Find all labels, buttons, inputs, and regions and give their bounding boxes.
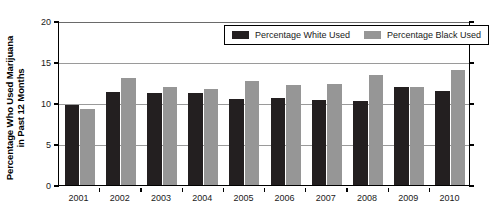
bar bbox=[327, 84, 342, 185]
y-axis-tick-label: 5 bbox=[46, 140, 51, 150]
bar bbox=[65, 105, 80, 185]
bar bbox=[394, 87, 409, 185]
x-axis-tick-label: 2005 bbox=[233, 193, 253, 203]
bar bbox=[80, 109, 95, 185]
bar bbox=[271, 98, 286, 185]
bar bbox=[163, 87, 178, 185]
bar bbox=[188, 93, 203, 185]
x-axis-tick bbox=[388, 188, 389, 192]
bar bbox=[435, 91, 450, 185]
y-axis-tick-right bbox=[469, 185, 474, 186]
bar bbox=[410, 87, 425, 185]
bar bbox=[229, 99, 244, 185]
bar bbox=[369, 75, 384, 185]
x-axis-tick-label: 2001 bbox=[69, 193, 89, 203]
x-axis-tick bbox=[305, 188, 306, 192]
legend-swatch-white-used bbox=[232, 31, 249, 39]
bar bbox=[147, 93, 162, 185]
bar-group bbox=[353, 22, 383, 185]
bar-group bbox=[106, 22, 136, 185]
x-axis-tick-label: 2002 bbox=[110, 193, 130, 203]
chart-legend: Percentage White Used Percentage Black U… bbox=[224, 25, 489, 45]
plot-area: 05101520 bbox=[58, 22, 470, 186]
x-axis-tick-label: 2004 bbox=[192, 193, 212, 203]
legend-swatch-black-used bbox=[364, 31, 381, 39]
x-axis-tick-label: 2010 bbox=[439, 193, 459, 203]
y-axis-title-line-2: in Past 12 Months bbox=[15, 36, 27, 180]
y-axis-tick bbox=[54, 185, 59, 186]
bar bbox=[106, 92, 121, 185]
x-axis-tick bbox=[182, 188, 183, 192]
bar-group bbox=[147, 22, 177, 185]
legend-item-white-used: Percentage White Used bbox=[232, 30, 350, 40]
bar-group bbox=[229, 22, 259, 185]
y-axis-title: Percentage Who Used Marijuana in Past 12… bbox=[0, 0, 30, 216]
bar bbox=[204, 89, 219, 185]
bars-layer bbox=[59, 22, 469, 185]
y-axis-tick-label: 10 bbox=[41, 99, 51, 109]
bar bbox=[286, 85, 301, 185]
y-axis-tick-right bbox=[469, 62, 474, 63]
x-axis-tick bbox=[346, 188, 347, 192]
bar-group bbox=[312, 22, 342, 185]
bar-group bbox=[435, 22, 465, 185]
x-axis-tick bbox=[264, 188, 265, 192]
bar bbox=[451, 70, 466, 185]
legend-label-white-used: Percentage White Used bbox=[255, 30, 350, 40]
x-axis-tick-label: 2006 bbox=[275, 193, 295, 203]
bar-group bbox=[394, 22, 424, 185]
y-axis-title-line-1: Percentage Who Used Marijuana bbox=[4, 36, 16, 180]
y-axis-tick-label: 0 bbox=[46, 181, 51, 191]
bar-group bbox=[271, 22, 301, 185]
bar-group bbox=[65, 22, 95, 185]
x-axis-tick-label: 2007 bbox=[316, 193, 336, 203]
y-axis-tick-label: 15 bbox=[41, 58, 51, 68]
bar bbox=[312, 100, 327, 185]
y-axis-tick-right bbox=[469, 144, 474, 145]
y-axis-tick-label: 20 bbox=[41, 17, 51, 27]
x-axis-tick-label: 2003 bbox=[151, 193, 171, 203]
bar bbox=[245, 81, 260, 185]
y-axis-tick-right bbox=[469, 103, 474, 104]
x-axis-tick bbox=[140, 188, 141, 192]
x-axis: 2001200220032004200520062007200820092010 bbox=[58, 188, 470, 206]
x-axis-tick bbox=[429, 188, 430, 192]
y-axis-tick-right bbox=[469, 21, 474, 22]
legend-label-black-used: Percentage Black Used bbox=[387, 30, 481, 40]
x-axis-tick bbox=[99, 188, 100, 192]
marijuana-use-bar-chart: Percentage Who Used Marijuana in Past 12… bbox=[0, 0, 490, 216]
x-axis-tick bbox=[223, 188, 224, 192]
x-axis-tick-label: 2009 bbox=[398, 193, 418, 203]
x-axis-tick-label: 2008 bbox=[357, 193, 377, 203]
bar bbox=[121, 78, 136, 185]
legend-item-black-used: Percentage Black Used bbox=[364, 30, 481, 40]
bar-group bbox=[188, 22, 218, 185]
bar bbox=[353, 101, 368, 185]
